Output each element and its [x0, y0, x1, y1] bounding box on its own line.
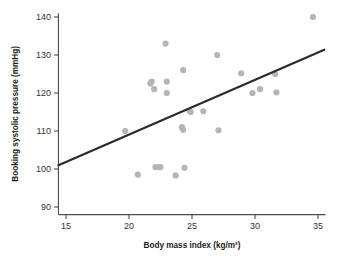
y-tick-label: 130: [36, 50, 51, 60]
x-tick-label: 30: [250, 221, 260, 231]
data-point: [149, 79, 155, 85]
y-tick-label: 110: [37, 126, 51, 136]
y-tick-label: 90: [41, 202, 51, 212]
data-point: [164, 79, 170, 85]
x-axis: 1520253035: [58, 215, 325, 231]
regression-line: [58, 50, 324, 166]
axis-titles: Body mass index (kg/m²)Booking systolic …: [11, 46, 241, 250]
y-tick-label: 100: [36, 164, 51, 174]
data-point: [162, 41, 168, 47]
data-point: [200, 108, 206, 114]
y-axis-title: Booking systolic pressure (mmHg): [11, 46, 20, 182]
y-axis: 90100110120130140: [36, 12, 59, 214]
x-axis-title: Body mass index (kg/m²): [144, 241, 241, 250]
scatter-chart: 90100110120130140 1520253035 Body mass i…: [0, 0, 339, 263]
data-point: [135, 172, 141, 178]
data-point: [215, 127, 221, 133]
data-point: [181, 165, 187, 171]
chart-canvas: 90100110120130140 1520253035 Body mass i…: [0, 0, 339, 263]
data-point: [310, 14, 316, 20]
y-tick-label: 140: [36, 12, 51, 22]
data-point: [164, 90, 170, 96]
data-point: [257, 86, 263, 92]
x-tick-label: 35: [313, 221, 323, 231]
data-point: [273, 89, 279, 95]
data-point: [157, 164, 163, 170]
data-point: [249, 90, 255, 96]
regression-line-path: [58, 50, 324, 166]
data-point: [151, 86, 157, 92]
data-point: [180, 67, 186, 73]
data-point: [238, 70, 244, 76]
x-tick-label: 20: [124, 221, 134, 231]
data-point: [122, 128, 128, 134]
data-point: [214, 52, 220, 58]
x-tick-label: 25: [187, 221, 197, 231]
x-tick-label: 15: [61, 221, 71, 231]
data-point: [173, 172, 179, 178]
y-tick-label: 120: [36, 88, 51, 98]
data-point: [180, 127, 186, 133]
